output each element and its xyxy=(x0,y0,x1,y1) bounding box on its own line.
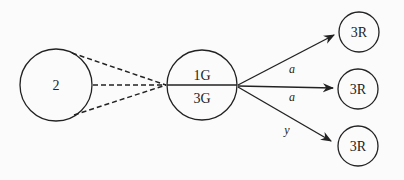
dashed-edge-bottom xyxy=(74,85,166,115)
node-right-1-label: 3R xyxy=(351,25,368,40)
node-right-3-label: 3R xyxy=(350,139,367,154)
node-right-2-label: 3R xyxy=(350,82,367,97)
node-right-1: 3R xyxy=(339,12,379,52)
node-right-2: 3R xyxy=(338,69,378,109)
node-right-3: 3R xyxy=(338,126,378,166)
node-center-top-label: 1G xyxy=(193,68,210,83)
edge-label-middle: a xyxy=(289,90,295,104)
edge-label-bottom: y xyxy=(283,123,290,137)
diagram: 2 1G 3G a a y 3R 3R 3R xyxy=(0,0,404,180)
edge-label-top: a xyxy=(289,62,295,76)
arrow-edge-top xyxy=(238,35,334,85)
dashed-edge-top xyxy=(72,53,166,85)
node-center: 1G 3G xyxy=(167,50,237,120)
node-center-bottom-label: 3G xyxy=(193,91,210,106)
node-left: 2 xyxy=(20,49,92,121)
diagram-canvas: 2 1G 3G a a y 3R 3R 3R xyxy=(0,0,404,180)
node-left-label: 2 xyxy=(53,78,60,93)
arrow-edge-middle xyxy=(238,86,333,88)
